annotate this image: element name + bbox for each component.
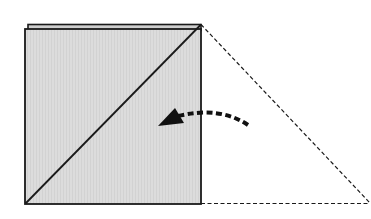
fold-diagram (0, 0, 371, 219)
diagram-container: Fold triangle over onto square (0, 0, 371, 219)
